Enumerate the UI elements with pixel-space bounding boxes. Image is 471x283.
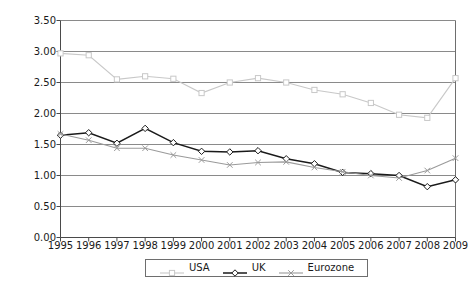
data-point-marker [142, 125, 148, 131]
data-point-marker [283, 156, 289, 162]
data-point-marker [340, 92, 345, 97]
interest-margin-line-chart: Interest margin (%) 0.000.501.001.502.00… [0, 0, 471, 283]
marker-diamond [86, 130, 92, 136]
marker-diamond [311, 161, 317, 167]
x-axis-tick-labels: 1995199619971998199920002001200220032004… [0, 240, 471, 256]
marker-square [171, 76, 176, 81]
data-point-marker [58, 51, 63, 56]
data-point-marker [255, 148, 261, 154]
data-point-marker [255, 76, 260, 81]
marker-square [227, 80, 232, 85]
marker-square [396, 112, 401, 117]
data-point-marker [452, 177, 458, 183]
marker-square [284, 80, 289, 85]
marker-square [86, 53, 91, 58]
data-point-marker [424, 183, 430, 189]
series-usa [58, 51, 458, 121]
data-point-marker [284, 80, 289, 85]
data-point-marker [232, 270, 238, 276]
data-point-marker [198, 148, 204, 154]
legend-item-uk[interactable]: UK [222, 263, 266, 273]
data-point-marker [86, 130, 92, 136]
marker-diamond [142, 125, 148, 131]
marker-square [340, 92, 345, 97]
legend-swatch-eurozone [278, 263, 304, 273]
marker-diamond [283, 156, 289, 162]
legend-item-usa[interactable]: USA [159, 263, 210, 273]
data-point-marker [86, 53, 91, 58]
legend-item-eurozone[interactable]: Eurozone [278, 263, 355, 273]
data-point-marker [453, 76, 458, 81]
data-point-marker [114, 77, 119, 82]
legend-label: Eurozone [308, 263, 355, 273]
marker-diamond [232, 270, 238, 276]
marker-square [368, 100, 373, 105]
data-point-marker [368, 100, 373, 105]
x-tick-label: 2009 [439, 240, 471, 252]
marker-square [453, 76, 458, 81]
data-point-marker [57, 132, 63, 138]
marker-square [114, 77, 119, 82]
marker-square [255, 76, 260, 81]
series-uk [57, 125, 458, 190]
chart-legend: USAUKEurozone [145, 259, 368, 277]
marker-square [58, 51, 63, 56]
marker-square [312, 87, 317, 92]
marker-square [199, 90, 204, 95]
data-point-marker [143, 74, 148, 79]
legend-swatch-uk [222, 263, 248, 273]
data-point-marker [227, 80, 232, 85]
marker-square [425, 115, 430, 120]
marker-diamond [452, 177, 458, 183]
data-point-marker [396, 112, 401, 117]
series-line [61, 134, 456, 178]
marker-diamond [57, 132, 63, 138]
data-point-marker [227, 149, 233, 155]
marker-diamond [424, 183, 430, 189]
data-point-marker [312, 87, 317, 92]
marker-diamond [227, 149, 233, 155]
data-point-marker [171, 76, 176, 81]
data-point-marker [169, 270, 174, 275]
data-point-marker [199, 90, 204, 95]
marker-diamond [198, 148, 204, 154]
marker-diamond [255, 148, 261, 154]
y-gridlines [61, 21, 456, 238]
marker-square [169, 270, 174, 275]
legend-label: USA [189, 263, 210, 273]
legend-swatch-usa [159, 263, 185, 273]
data-point-marker [311, 161, 317, 167]
data-point-marker [425, 115, 430, 120]
marker-square [143, 74, 148, 79]
legend-label: UK [252, 263, 266, 273]
series-line [61, 53, 456, 117]
